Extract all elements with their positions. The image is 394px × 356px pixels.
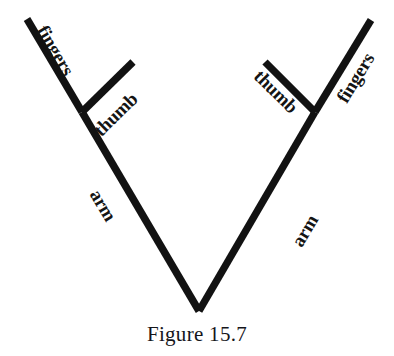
figure-caption: Figure 15.7 bbox=[0, 322, 394, 347]
right-arm-segment bbox=[199, 112, 315, 311]
figure-15-7: fingers thumb arm fingers thumb arm Figu… bbox=[0, 0, 394, 356]
left-thumb-segment bbox=[82, 62, 133, 112]
right-fingers-segment bbox=[315, 20, 371, 112]
left-fingers-segment bbox=[27, 19, 82, 112]
right-thumb-segment bbox=[265, 62, 315, 112]
v-shape-diagram bbox=[0, 0, 394, 356]
left-arm-segment bbox=[82, 112, 199, 311]
